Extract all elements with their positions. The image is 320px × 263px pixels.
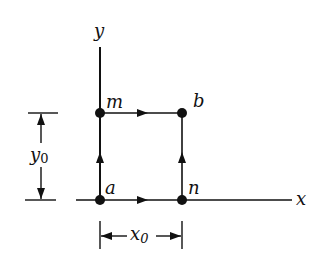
point-label-m: m: [106, 91, 123, 112]
arrow-a-m-icon: [96, 152, 104, 163]
y0-arrow-up-icon: [37, 114, 45, 125]
y0-arrow-down-icon: [37, 188, 45, 199]
point-label-b: b: [193, 90, 205, 111]
point-b: [177, 108, 187, 118]
x0-arrow-right-icon: [170, 232, 181, 240]
point-m: [95, 108, 105, 118]
point-label-a: a: [105, 177, 116, 198]
y0-label: y0: [29, 144, 48, 166]
arrow-m-b-icon: [137, 109, 148, 117]
x0-label: x0: [130, 223, 148, 246]
x-axis-label: x: [296, 188, 306, 209]
arrow-a-n-icon: [137, 196, 148, 204]
point-a: [95, 195, 105, 205]
arrow-n-b-icon: [178, 152, 186, 163]
x0-arrow-left-icon: [101, 232, 112, 240]
y-axis-label: y: [93, 20, 105, 41]
point-label-n: n: [188, 177, 200, 198]
point-n: [177, 195, 187, 205]
loop-path-diagram: y x m b a n y0 x0: [0, 0, 320, 263]
